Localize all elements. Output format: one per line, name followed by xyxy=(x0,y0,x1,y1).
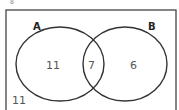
set-a-only-value: 11 xyxy=(46,59,60,72)
set-b-circle xyxy=(83,27,167,101)
intersection-value: 7 xyxy=(88,59,95,72)
venn-diagram: A B 11 7 6 11 xyxy=(0,0,179,110)
set-b-only-value: 6 xyxy=(130,59,137,72)
set-b-label: B xyxy=(148,21,156,32)
set-a-label: A xyxy=(33,21,41,32)
outside-value: 11 xyxy=(12,94,26,107)
